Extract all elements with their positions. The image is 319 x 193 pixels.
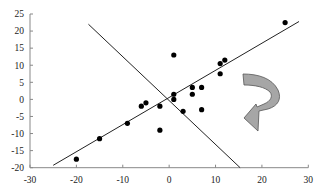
y-tick-label: -20 [11, 163, 24, 173]
data-point [171, 97, 176, 102]
data-point [218, 61, 223, 66]
x-tick-label: 0 [167, 175, 172, 185]
perpendicular-line [88, 24, 240, 167]
data-point [97, 136, 102, 141]
y-tick-label: 20 [15, 26, 25, 36]
curved-arrow-icon [243, 74, 280, 131]
x-tick-label: -20 [70, 175, 83, 185]
data-point [222, 58, 227, 63]
x-tick-label: 30 [304, 175, 314, 185]
data-point [180, 109, 185, 114]
x-tick-label: -10 [116, 175, 129, 185]
y-tick-label: -10 [11, 129, 24, 139]
y-tick-label: 0 [19, 95, 24, 105]
y-tick-label: -5 [16, 112, 24, 122]
data-point [139, 104, 144, 109]
axes [30, 14, 308, 168]
data-point [218, 71, 223, 76]
data-point [190, 92, 195, 97]
data-point [125, 121, 130, 126]
y-tick-label: 15 [15, 43, 25, 53]
y-tick-label: 25 [15, 9, 25, 19]
scatter-chart: -30-20-100102030 -20-15-10-50510152025 [0, 0, 319, 193]
y-tick-label: 10 [15, 61, 25, 71]
y-tick-label: -15 [11, 146, 24, 156]
data-point [199, 107, 204, 112]
data-point [171, 92, 176, 97]
x-tick-label: 20 [257, 175, 267, 185]
data-point [283, 20, 288, 25]
data-point [199, 85, 204, 90]
x-tick-label: 10 [211, 175, 221, 185]
data-point [171, 52, 176, 57]
x-tick-label: -30 [24, 175, 37, 185]
data-point [157, 128, 162, 133]
data-point [143, 100, 148, 105]
y-tick-label: 5 [19, 78, 24, 88]
data-point [157, 104, 162, 109]
data-point [190, 85, 195, 90]
rotation-arrow-shape [243, 74, 280, 131]
data-point [74, 157, 79, 162]
